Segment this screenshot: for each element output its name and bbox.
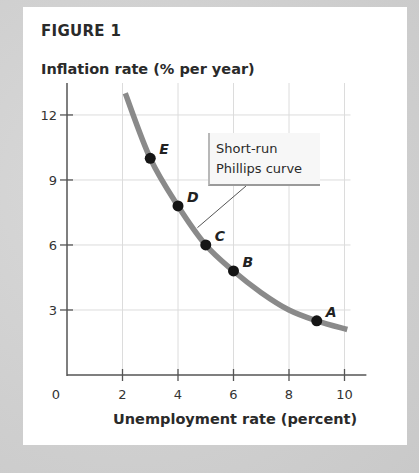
data-point-marker <box>311 315 322 326</box>
data-point-label: D <box>187 189 199 205</box>
point-b: B <box>228 254 253 277</box>
data-point-marker <box>173 200 184 211</box>
y-tick-label: 12 <box>40 108 57 123</box>
x-tick-label: 6 <box>229 387 237 402</box>
data-point-label: A <box>325 304 337 320</box>
x-tick-label: 0 <box>52 387 60 402</box>
data-point-marker <box>228 265 239 276</box>
phillips-curve-line <box>125 93 347 329</box>
x-tick-label: 10 <box>336 387 353 402</box>
data-point-label: B <box>243 254 254 270</box>
grid-lines <box>67 83 351 375</box>
y-tick-label: 9 <box>49 173 57 188</box>
x-tick-label: 4 <box>174 387 182 402</box>
callout-line-1: Short-run <box>216 139 320 159</box>
data-point-marker <box>200 239 211 250</box>
callout-leader-line <box>197 186 246 228</box>
data-point-marker <box>145 153 156 164</box>
phillips-curve-chart: 369120246810 ABCDE <box>0 0 419 473</box>
y-tick-label: 3 <box>49 303 57 318</box>
curve-callout-box: Short-run Phillips curve <box>208 133 320 186</box>
x-tick-label: 2 <box>118 387 126 402</box>
x-tick-label: 8 <box>285 387 293 402</box>
y-tick-label: 6 <box>49 238 57 253</box>
callout-line-2: Phillips curve <box>216 159 320 179</box>
data-point-label: E <box>159 141 169 157</box>
data-point-label: C <box>215 228 226 244</box>
